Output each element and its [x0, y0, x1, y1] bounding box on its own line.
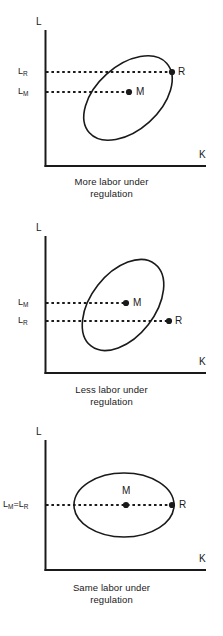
point-label-r: R	[175, 316, 182, 326]
isoquant-ellipse	[66, 244, 180, 365]
panel-more-labor: L K LR LM R M More labor under regulatio…	[0, 0, 223, 212]
point-label-m: M	[133, 298, 141, 308]
panel-same-labor: L K LM=LR M R Same labor under regulatio…	[0, 424, 223, 636]
tick-label-lm: LM	[18, 298, 28, 307]
y-axis-label: L	[36, 427, 42, 437]
point-r-marker	[169, 502, 175, 508]
tick-label-lm-eq-lr: LM=LR	[3, 500, 28, 509]
point-r-marker	[169, 69, 175, 75]
plot-area-3: L K LM=LR M R	[0, 424, 223, 602]
caption-line-2: regulation	[0, 396, 223, 408]
point-m-marker	[126, 89, 132, 95]
tick-label-lr: LR	[18, 316, 28, 325]
panel-caption-1: More labor under regulation	[0, 176, 223, 199]
point-label-r: R	[178, 67, 185, 77]
caption-line-1: More labor under	[0, 176, 223, 188]
caption-line-1: Less labor under	[0, 384, 223, 396]
caption-line-2: regulation	[0, 188, 223, 200]
isoquant-ellipse	[68, 39, 188, 156]
plot-area-2: L K LM LR M R	[0, 212, 223, 390]
point-r-marker	[166, 318, 172, 324]
caption-line-2: regulation	[0, 594, 223, 606]
x-axis-label: K	[199, 150, 206, 160]
caption-line-1: Same labor under	[0, 582, 223, 594]
point-label-m: M	[122, 486, 130, 496]
point-label-r: R	[179, 500, 186, 510]
plot-canvas-2	[0, 212, 223, 390]
plot-area-1: L K LR LM R M	[0, 0, 223, 178]
x-axis-label: K	[199, 357, 206, 367]
three-panel-figure: L K LR LM R M More labor under regulatio…	[0, 0, 223, 636]
plot-canvas-1	[0, 0, 223, 178]
point-m-marker	[123, 300, 129, 306]
panel-caption-2: Less labor under regulation	[0, 384, 223, 407]
tick-label-lr: LR	[18, 67, 28, 76]
panel-less-labor: L K LM LR M R Less labor under regulatio…	[0, 212, 223, 424]
x-axis-label: K	[199, 554, 206, 564]
tick-label-lm: LM	[18, 87, 28, 96]
point-label-m: M	[136, 87, 144, 97]
y-axis-label: L	[36, 223, 42, 233]
panel-caption-3: Same labor under regulation	[0, 582, 223, 605]
plot-canvas-3	[0, 424, 223, 602]
point-m-marker	[123, 502, 129, 508]
y-axis-label: L	[36, 17, 42, 27]
